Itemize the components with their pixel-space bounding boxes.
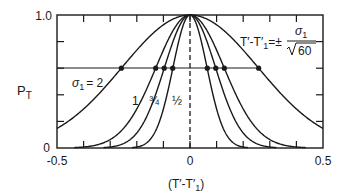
svg-text:σ1: σ1 bbox=[295, 24, 307, 40]
x-tick-mid: 0 bbox=[187, 154, 194, 168]
intersection-dot bbox=[170, 66, 175, 71]
intersection-dot bbox=[162, 66, 167, 71]
intersection-dot bbox=[222, 66, 227, 71]
y-tick-top: 1.0 bbox=[35, 9, 52, 23]
y-axis-label: PT bbox=[17, 83, 32, 101]
sigma-12-label: ½ bbox=[172, 94, 182, 108]
intersection-dot bbox=[205, 66, 210, 71]
intersection-dot bbox=[119, 66, 124, 71]
svg-text:T′-T′1=±: T′-T′1=± bbox=[240, 35, 282, 51]
x-tick-right: 0.5 bbox=[315, 154, 332, 168]
formula-annotation: T′-T′1=± σ1 60 bbox=[240, 24, 316, 58]
intersection-dot bbox=[153, 66, 158, 71]
chart: 1.0 0 -0.5 0 0.5 PT (T′-T′1) σ1= 2 1 ¾ ½… bbox=[0, 0, 341, 196]
sigma-2-label: σ1= 2 bbox=[72, 76, 104, 92]
intersection-dot bbox=[256, 66, 261, 71]
x-tick-left: -0.5 bbox=[47, 154, 68, 168]
intersection-dot bbox=[213, 66, 218, 71]
x-axis-label: (T′-T′1) bbox=[168, 177, 204, 193]
svg-text:60: 60 bbox=[298, 44, 312, 58]
sigma-1-label: 1 bbox=[132, 94, 139, 108]
sigma-34-label: ¾ bbox=[149, 94, 160, 108]
y-tick-bottom: 0 bbox=[43, 141, 50, 155]
